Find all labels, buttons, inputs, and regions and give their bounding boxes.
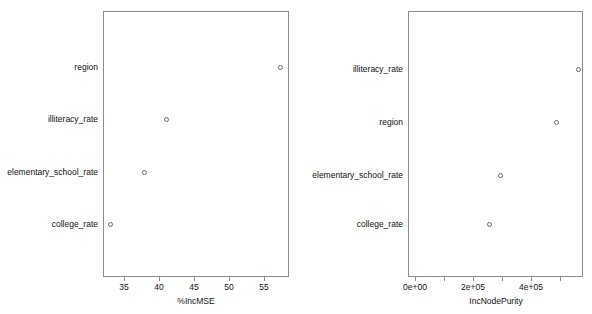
incmse-category-label-region: region [0, 63, 98, 72]
nodepurity-data-point-elementary-school-rate [498, 173, 503, 178]
nodepurity-category-label-elementary-school-rate: elementary_school_rate [304, 171, 403, 180]
nodepurity-category-label-region: region [304, 118, 403, 127]
incmse-panel: region illiteracy_rate elementary_school… [0, 0, 296, 314]
nodepurity-panel: illiteracy_rate region elementary_school… [296, 0, 592, 314]
nodepurity-tick-mark-4e05 [531, 277, 532, 281]
nodepurity-tick-mark-5e05 [560, 277, 561, 281]
incmse-data-point-college-rate [108, 222, 113, 227]
incmse-tick-mark-35 [124, 277, 125, 281]
incmse-tick-label-50: 50 [209, 283, 249, 292]
nodepurity-tick-mark-1e05 [444, 277, 445, 281]
nodepurity-tick-mark-2e05 [473, 277, 474, 281]
incmse-tick-label-45: 45 [174, 283, 214, 292]
incmse-tick-mark-55 [264, 277, 265, 281]
nodepurity-data-point-region [554, 120, 559, 125]
nodepurity-x-axis-title: IncNodePurity [436, 296, 556, 306]
nodepurity-tick-label-4e05: 4e+05 [507, 283, 555, 292]
nodepurity-tick-mark-0e00 [415, 277, 416, 281]
incmse-tick-label-55: 55 [244, 283, 284, 292]
nodepurity-tick-label-0e00: 0e+00 [391, 283, 439, 292]
incmse-tick-mark-45 [194, 277, 195, 281]
nodepurity-category-label-college-rate: college_rate [304, 220, 403, 229]
incmse-plot-box [103, 11, 289, 277]
incmse-data-point-region [278, 65, 283, 70]
incmse-category-label-elementary-school-rate: elementary_school_rate [0, 168, 98, 177]
nodepurity-data-point-college-rate [487, 222, 492, 227]
incmse-data-point-elementary-school-rate [142, 170, 147, 175]
nodepurity-data-point-illiteracy-rate [576, 67, 581, 72]
variable-importance-figure: region illiteracy_rate elementary_school… [0, 0, 592, 314]
incmse-tick-mark-50 [229, 277, 230, 281]
nodepurity-tick-label-2e05: 2e+05 [449, 283, 497, 292]
incmse-category-label-college-rate: college_rate [0, 220, 98, 229]
incmse-data-point-illiteracy-rate [164, 117, 169, 122]
incmse-tick-label-40: 40 [139, 283, 179, 292]
nodepurity-category-label-illiteracy-rate: illiteracy_rate [304, 65, 403, 74]
incmse-category-label-illiteracy-rate: illiteracy_rate [0, 115, 98, 124]
incmse-x-axis-title: %IncMSE [146, 296, 246, 306]
incmse-tick-mark-40 [159, 277, 160, 281]
incmse-tick-label-35: 35 [104, 283, 144, 292]
nodepurity-tick-mark-3e05 [502, 277, 503, 281]
nodepurity-plot-box [408, 11, 583, 277]
